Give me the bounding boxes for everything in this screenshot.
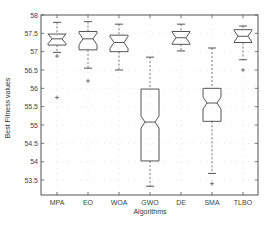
- y-tick-label: 55.5: [24, 103, 38, 110]
- y-tick-label: 57: [30, 48, 38, 55]
- y-tick-label: 54: [30, 158, 38, 165]
- box-tlbo: [234, 26, 252, 72]
- y-tick-label: 55: [30, 122, 38, 129]
- x-tick-label: MPA: [50, 199, 65, 206]
- box-gwo: [141, 57, 159, 186]
- grid-lines: [44, 15, 255, 193]
- x-tick-label: EO: [83, 199, 94, 206]
- y-tick-label: 58: [30, 12, 38, 19]
- x-tick-label: TLBO: [234, 199, 253, 206]
- box-eo: [79, 22, 97, 83]
- x-tick-label: WOA: [111, 199, 128, 206]
- notched-box: [203, 88, 221, 121]
- box-series: [48, 22, 252, 187]
- notched-box: [110, 35, 128, 52]
- y-tick-label: 57.5: [24, 30, 38, 37]
- box-de: [172, 24, 190, 51]
- y-tick-label: 54.5: [24, 140, 38, 147]
- boxplot-chart: 5857.55756.55655.55554.55453.5 MPAEOWOAG…: [0, 0, 269, 227]
- x-tick-label: DE: [176, 199, 186, 206]
- x-tick-label: SMA: [204, 199, 220, 206]
- y-tick-label: 56.5: [24, 67, 38, 74]
- plot-frame: [41, 15, 258, 195]
- box-sma: [203, 48, 221, 186]
- y-tick-label: 53.5: [24, 177, 38, 184]
- notched-box: [48, 34, 66, 45]
- box-woa: [110, 24, 128, 70]
- x-axis-title: Algorithms: [133, 208, 167, 216]
- x-tick-label: GWO: [141, 199, 159, 206]
- axes: [41, 15, 258, 195]
- y-tick-label: 56: [30, 85, 38, 92]
- y-axis-title: Best Fitness values: [4, 77, 11, 138]
- notched-box: [79, 32, 97, 50]
